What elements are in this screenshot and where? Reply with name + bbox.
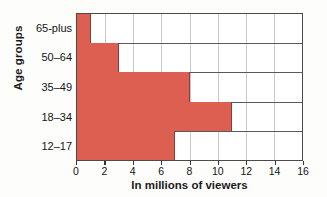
x-axis-tick-label: 16 [297, 165, 309, 177]
bar [77, 43, 119, 72]
x-axis-tick-label: 4 [130, 165, 136, 177]
bar-row [77, 131, 302, 160]
x-axis-title: In millions of viewers [76, 179, 303, 191]
bar [77, 102, 232, 131]
y-axis-tick-label: 35–49 [20, 72, 74, 102]
bar-chart: Age groups 65-plus50–6435–4918–3412–17 0… [0, 0, 327, 197]
y-axis-tick-labels: 65-plus50–6435–4918–3412–17 [20, 13, 74, 161]
plot-area [76, 13, 303, 161]
bar-series [77, 14, 302, 160]
x-axis-tick-labels: 0246810121416 [76, 165, 303, 179]
y-axis-tick-label: 50–64 [20, 43, 74, 73]
x-axis-tick-label: 0 [73, 165, 79, 177]
x-axis-tick-label: 2 [101, 165, 107, 177]
x-axis-tick-label: 12 [240, 165, 252, 177]
bar-row [77, 102, 302, 131]
bar [77, 72, 190, 101]
bar-row [77, 72, 302, 101]
bar [77, 14, 91, 43]
x-axis-tick-label: 14 [269, 165, 281, 177]
bar [77, 131, 175, 160]
y-axis-tick-label: 65-plus [20, 13, 74, 43]
y-axis-tick-label: 12–17 [20, 131, 74, 161]
x-axis-tick-label: 6 [158, 165, 164, 177]
bar-row [77, 43, 302, 72]
x-axis-tick-label: 10 [212, 165, 224, 177]
bar-row [77, 14, 302, 43]
x-axis-tick-label: 8 [187, 165, 193, 177]
y-axis-tick-label: 18–34 [20, 102, 74, 132]
